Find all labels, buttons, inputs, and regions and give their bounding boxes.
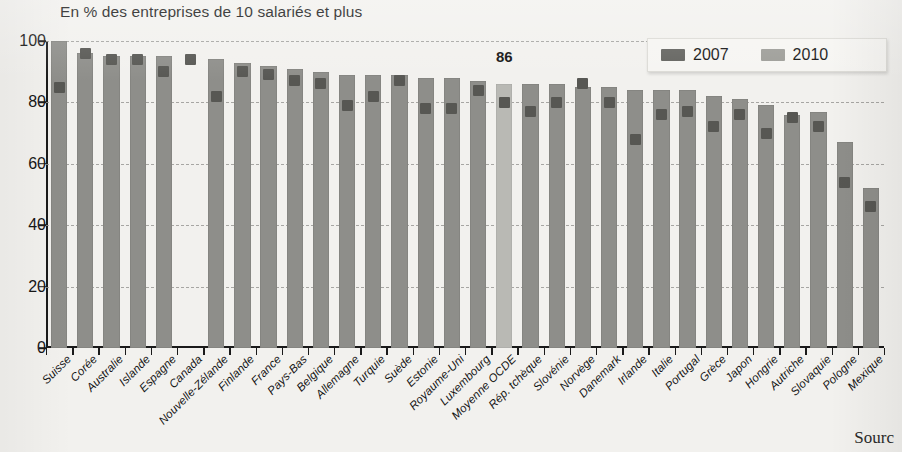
bar-2010[interactable]: [391, 75, 407, 348]
marker-2007[interactable]: [289, 75, 300, 86]
bar-2010[interactable]: [732, 99, 748, 348]
bar-group[interactable]: [837, 41, 853, 348]
x-tick-mark: [884, 348, 885, 355]
marker-2007[interactable]: [682, 106, 693, 117]
marker-2007[interactable]: [604, 97, 615, 108]
bar-group[interactable]: [575, 41, 591, 348]
bar-2010[interactable]: [863, 188, 879, 348]
marker-2007[interactable]: [499, 97, 510, 108]
marker-2007[interactable]: [54, 82, 65, 93]
bar-group[interactable]: [732, 41, 748, 348]
bar-2010[interactable]: [234, 63, 250, 349]
bar-2010[interactable]: [208, 59, 224, 348]
bar-2010[interactable]: [260, 66, 276, 348]
bar-group[interactable]: [365, 41, 381, 348]
marker-2007[interactable]: [473, 85, 484, 96]
marker-2007[interactable]: [132, 54, 143, 65]
marker-2007[interactable]: [865, 201, 876, 212]
bar-group[interactable]: [77, 41, 93, 348]
bar-group[interactable]: [260, 41, 276, 348]
marker-2007[interactable]: [551, 97, 562, 108]
marker-2007[interactable]: [577, 78, 588, 89]
marker-2007[interactable]: [839, 177, 850, 188]
bar-group[interactable]: [391, 41, 407, 348]
x-axis-label: Grèce: [696, 352, 728, 384]
bar-2010[interactable]: [339, 75, 355, 348]
bar-group[interactable]: [758, 41, 774, 348]
bar-2010[interactable]: [810, 112, 826, 348]
bar-2010[interactable]: [549, 84, 565, 348]
marker-2007[interactable]: [211, 91, 222, 102]
bar-group[interactable]: [156, 41, 172, 348]
marker-2007[interactable]: [80, 48, 91, 59]
marker-2007[interactable]: [630, 134, 641, 145]
bar-2010[interactable]: [287, 69, 303, 348]
marker-2007[interactable]: [734, 109, 745, 120]
marker-2007[interactable]: [420, 103, 431, 114]
bar-group[interactable]: [470, 41, 486, 348]
bar-2010[interactable]: [758, 105, 774, 348]
legend-swatch-2010: [761, 49, 785, 61]
bar-2010[interactable]: [627, 90, 643, 348]
bar-2010[interactable]: [103, 56, 119, 348]
bar-group[interactable]: [627, 41, 643, 348]
bar-group[interactable]: [51, 41, 67, 348]
marker-2007[interactable]: [158, 66, 169, 77]
bar-group[interactable]: [208, 41, 224, 348]
marker-2007[interactable]: [263, 69, 274, 80]
marker-2007[interactable]: [787, 112, 798, 123]
bar-2010[interactable]: [77, 53, 93, 348]
bar-group[interactable]: [313, 41, 329, 348]
bar-group[interactable]: [103, 41, 119, 348]
y-tick-mark: [39, 163, 46, 165]
bar-2010[interactable]: [784, 115, 800, 348]
bar-2010[interactable]: [653, 90, 669, 348]
marker-2007[interactable]: [813, 121, 824, 132]
marker-2007[interactable]: [394, 75, 405, 86]
bar-group[interactable]: [522, 41, 538, 348]
marker-2007[interactable]: [761, 128, 772, 139]
chart-title: En % des entreprises de 10 salariés et p…: [60, 3, 362, 21]
bar-group[interactable]: [287, 41, 303, 348]
marker-2007[interactable]: [446, 103, 457, 114]
bar-group[interactable]: [653, 41, 669, 348]
marker-2007[interactable]: [315, 78, 326, 89]
marker-2007[interactable]: [708, 121, 719, 132]
bar-2010[interactable]: [470, 81, 486, 348]
marker-2007[interactable]: [185, 54, 196, 65]
bar-group[interactable]: [863, 41, 879, 348]
bar-group[interactable]: [706, 41, 722, 348]
marker-2007[interactable]: [368, 91, 379, 102]
bar-2010[interactable]: [313, 72, 329, 348]
bar-2010[interactable]: [522, 84, 538, 348]
marker-2007[interactable]: [237, 66, 248, 77]
bar-2010[interactable]: [365, 75, 381, 348]
bar-group[interactable]: [784, 41, 800, 348]
bar-2010[interactable]: [601, 87, 617, 348]
bar-2010[interactable]: [156, 56, 172, 348]
bar-2010[interactable]: [575, 87, 591, 348]
bar-2010[interactable]: [679, 90, 695, 348]
bar-group[interactable]: [549, 41, 565, 348]
marker-2007[interactable]: [106, 54, 117, 65]
bar-group[interactable]: [182, 41, 198, 348]
bar-group[interactable]: [234, 41, 250, 348]
marker-2007[interactable]: [656, 109, 667, 120]
bar-2010[interactable]: [837, 142, 853, 348]
bar-2010[interactable]: [418, 78, 434, 348]
bar-group[interactable]: [810, 41, 826, 348]
bar-group[interactable]: [130, 41, 146, 348]
bar-group[interactable]: [339, 41, 355, 348]
bar-group[interactable]: [496, 41, 512, 348]
marker-2007[interactable]: [342, 100, 353, 111]
bar-series-group: [46, 41, 884, 348]
bar-2010[interactable]: [496, 84, 512, 348]
bar-2010[interactable]: [444, 78, 460, 348]
bar-group[interactable]: [679, 41, 695, 348]
bar-2010[interactable]: [706, 96, 722, 348]
marker-2007[interactable]: [525, 106, 536, 117]
bar-group[interactable]: [418, 41, 434, 348]
bar-2010[interactable]: [130, 56, 146, 348]
bar-group[interactable]: [601, 41, 617, 348]
bar-group[interactable]: [444, 41, 460, 348]
